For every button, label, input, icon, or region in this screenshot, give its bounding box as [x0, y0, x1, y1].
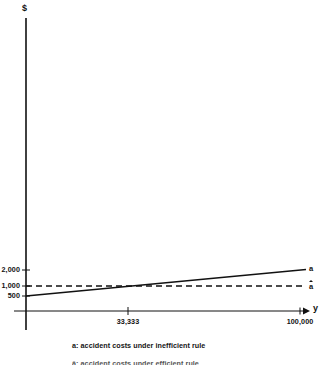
y-axis-title: $: [22, 4, 27, 13]
series-a-label: a: [309, 265, 313, 273]
y-tick-label-500: 500: [0, 292, 20, 299]
y-tick-label-2000: 2,000: [0, 266, 20, 273]
x-axis-title: y: [313, 304, 318, 313]
y-tick-label-1000: 1,000: [0, 282, 20, 289]
series-a-hat-label-text: a: [309, 283, 313, 291]
x-tick-label-100000: 100,000: [279, 318, 321, 325]
x-tick-label-33333: 33,333: [108, 318, 148, 325]
legend-line-inefficient: a: accident costs under inefficient rule: [72, 341, 205, 350]
legend-line-efficient: â: accident costs under efficient rule: [72, 359, 199, 365]
series-a-line: [26, 270, 306, 297]
chart-figure: $ y 2,000 1,000 500 33,333 100,000 a a a…: [0, 0, 324, 365]
x-axis-arrow-icon: [303, 308, 310, 315]
series-a-hat-label: a: [309, 283, 313, 291]
chart-canvas: [0, 0, 324, 365]
